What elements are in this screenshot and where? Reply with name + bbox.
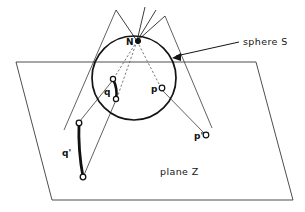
point-label-q-prime: q' bbox=[62, 148, 71, 158]
sphere-callout-arrow-shaft bbox=[176, 42, 239, 56]
projection-line-q2-to-q2-prime bbox=[84, 100, 116, 175]
projection-line-n-to-p bbox=[137, 41, 160, 86]
point-marker-q1-prime bbox=[76, 120, 82, 126]
projection-lines-solid-group bbox=[80, 80, 204, 175]
plane-z-outline bbox=[16, 62, 293, 200]
arc-q-prime-on-plane bbox=[79, 123, 83, 177]
point-marker-q2-prime bbox=[80, 174, 86, 180]
point-label-p: p bbox=[151, 84, 158, 94]
point-marker-p-prime bbox=[203, 132, 209, 138]
figure-canvas: N p p' q q' sphere S plane Z bbox=[0, 0, 305, 212]
point-label-p-prime: p' bbox=[194, 131, 203, 141]
point-marker-p bbox=[159, 85, 165, 91]
projection-line-n-to-q2 bbox=[117, 41, 137, 98]
sphere-s-outline bbox=[92, 36, 176, 120]
projection-line-p-to-p-prime bbox=[162, 90, 204, 133]
sphere-callout-arrow-head bbox=[172, 53, 181, 61]
stereographic-projection-figure: N p p' q q' sphere S plane Z bbox=[0, 0, 305, 212]
chord-right-long-line bbox=[165, 16, 212, 128]
point-label-n: N bbox=[126, 37, 134, 47]
plane-label: plane Z bbox=[160, 166, 199, 177]
point-marker-n bbox=[135, 38, 140, 43]
point-label-q: q bbox=[104, 87, 110, 97]
point-marker-q2 bbox=[113, 96, 118, 101]
point-marker-q1 bbox=[110, 76, 115, 81]
sphere-callout-arrow bbox=[172, 42, 239, 61]
sphere-label: sphere S bbox=[243, 36, 288, 47]
